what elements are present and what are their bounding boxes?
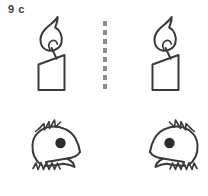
row-9-divider bbox=[103, 21, 107, 91]
candle-picture-right bbox=[140, 12, 204, 96]
row-9-right-pane bbox=[108, 0, 208, 100]
row-10-left-pane bbox=[0, 100, 100, 196]
cockatoo-head-picture-left bbox=[22, 112, 96, 190]
worksheet-sheet: 9 c 10 c bbox=[0, 0, 208, 196]
row-9-left-pane bbox=[0, 0, 100, 100]
worksheet-row: 10 c bbox=[0, 100, 208, 196]
cockatoo-head-picture-right bbox=[134, 112, 208, 190]
candle-picture-left bbox=[26, 12, 90, 96]
row-10-right-pane bbox=[108, 100, 208, 196]
worksheet-row: 9 c bbox=[0, 0, 208, 100]
